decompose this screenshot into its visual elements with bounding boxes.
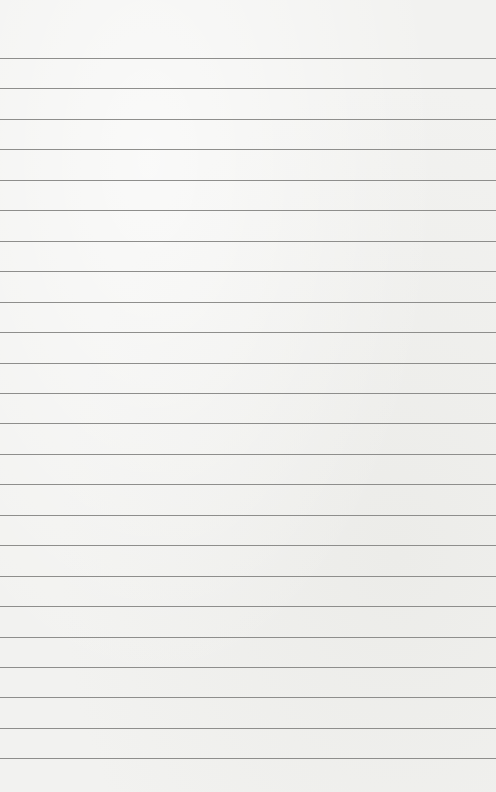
ruled-line [0, 393, 496, 394]
ruled-line [0, 728, 496, 729]
ruled-line [0, 606, 496, 607]
ruled-line [0, 363, 496, 364]
ruled-line [0, 697, 496, 698]
lined-paper [0, 0, 496, 792]
ruled-line [0, 515, 496, 516]
ruled-line [0, 149, 496, 150]
ruled-line [0, 58, 496, 59]
ruled-line [0, 332, 496, 333]
ruled-line [0, 180, 496, 181]
ruled-line [0, 758, 496, 759]
ruled-line [0, 210, 496, 211]
ruled-line [0, 302, 496, 303]
ruled-line [0, 241, 496, 242]
ruled-line [0, 545, 496, 546]
ruled-line [0, 423, 496, 424]
ruled-line [0, 484, 496, 485]
ruled-line [0, 119, 496, 120]
ruled-line [0, 637, 496, 638]
ruled-line [0, 88, 496, 89]
ruled-line [0, 454, 496, 455]
ruled-line [0, 667, 496, 668]
ruled-line [0, 576, 496, 577]
ruled-line [0, 271, 496, 272]
